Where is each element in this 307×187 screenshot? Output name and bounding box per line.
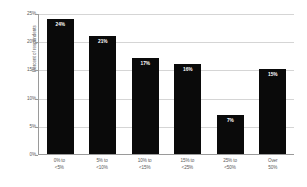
bar-slot: 7% [209, 14, 252, 154]
y-axis-tick-label: 0% [12, 153, 36, 158]
x-axis-tick-labels: 0% to<5%5% to<10%10% to<15%15% to<25%25%… [38, 158, 294, 171]
bar-slot: 24% [39, 14, 82, 154]
x-axis-tick-label: 15% to<25% [166, 158, 209, 171]
y-axis-tick-label: 15% [12, 68, 36, 73]
x-axis-tick-label-line: <10% [81, 165, 124, 172]
bar-slot: 17% [124, 14, 167, 154]
bar[interactable]: 24% [47, 19, 74, 154]
bar[interactable]: 15% [259, 69, 286, 154]
bar[interactable]: 16% [174, 64, 201, 154]
x-axis-tick-label-line: Over [251, 158, 294, 165]
bar-chart: Percent of respondents 25%20%15%10%5%0% … [0, 0, 307, 187]
x-axis-tick-label-line: <25% [166, 165, 209, 172]
x-axis-tick-label-line: 0% to [38, 158, 81, 165]
x-axis-tick-label: 10% to<15% [123, 158, 166, 171]
bar-value-label: 17% [132, 62, 159, 67]
bar-value-label: 21% [89, 40, 116, 45]
x-axis-tick-label-line: 15% to [166, 158, 209, 165]
x-axis-tick-label-line: <5% [38, 165, 81, 172]
bars-layer: 24%21%17%16%7%15% [39, 14, 294, 154]
bar-value-label: 24% [47, 23, 74, 28]
x-axis-tick-label-line: 10% to [123, 158, 166, 165]
y-axis-tick-label: 5% [12, 125, 36, 130]
x-axis-tick-label-line: 25% to [209, 158, 252, 165]
bar-slot: 16% [167, 14, 210, 154]
x-axis-tick-label: Over50% [251, 158, 294, 171]
bar-value-label: 15% [259, 73, 286, 78]
y-axis-tick-label: 20% [12, 40, 36, 45]
plot-area: 24%21%17%16%7%15% [38, 14, 294, 155]
x-axis-tick-label-line: 50% [251, 165, 294, 172]
bar-value-label: 16% [174, 68, 201, 73]
y-axis-title: Percent of respondents [32, 9, 37, 89]
bar-slot: 15% [252, 14, 295, 154]
x-axis-tick-label-line: 5% to [81, 158, 124, 165]
y-axis-tick-mark [35, 155, 38, 156]
x-axis-tick-label: 25% to<50% [209, 158, 252, 171]
bar-slot: 21% [82, 14, 125, 154]
y-axis-tick-label: 10% [12, 97, 36, 102]
bar[interactable]: 17% [132, 58, 159, 154]
bar[interactable]: 21% [89, 36, 116, 154]
y-axis-tick-label: 25% [12, 12, 36, 17]
bar-value-label: 7% [217, 119, 244, 124]
bar[interactable]: 7% [217, 115, 244, 154]
x-axis-tick-label: 5% to<10% [81, 158, 124, 171]
x-axis-tick-label-line: <15% [123, 165, 166, 172]
x-axis-tick-label: 0% to<5% [38, 158, 81, 171]
x-axis-tick-label-line: <50% [209, 165, 252, 172]
